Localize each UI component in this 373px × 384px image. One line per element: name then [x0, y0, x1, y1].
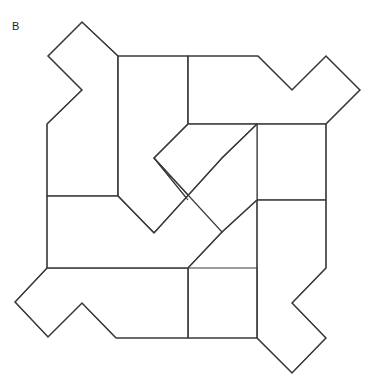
- tile-piece-bottom-left-wing: [15, 268, 188, 338]
- figure-panel: B: [0, 0, 373, 384]
- tiling-diagram: [0, 0, 373, 384]
- tile-piece-bottom-right: [188, 268, 257, 338]
- tile-piece-top-right-wing: [188, 56, 360, 124]
- tile-piece-right-lower: [257, 200, 326, 373]
- tile-piece-top-left-tall: [47, 22, 118, 196]
